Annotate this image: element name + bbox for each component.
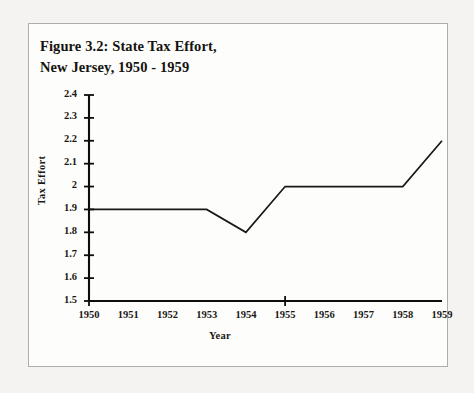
x-tick-label: 1956 [304,309,344,320]
x-tick-label: 1952 [147,309,187,320]
x-axis-label: Year [180,330,260,341]
x-tick-label: 1957 [344,309,384,320]
x-tick-label: 1953 [187,309,227,320]
y-axis-label: Tax Effort [36,136,47,226]
y-tick-label: 1.5 [51,294,77,305]
chart-plot-area: Tax Effort Year 1.51.61.71.81.922.12.22.… [0,0,474,393]
y-tick-label: 2.4 [51,88,77,99]
x-tick-label: 1958 [383,309,423,320]
figure-root: Figure 3.2: State Tax Effort, New Jersey… [0,0,474,393]
x-tick-label: 1951 [108,309,148,320]
x-tick-label: 1950 [69,309,109,320]
y-tick-label: 2.1 [51,156,77,167]
x-tick-label: 1959 [422,309,462,320]
data-series-line [89,141,442,233]
y-tick-label: 2 [51,179,77,190]
y-tick-label: 1.9 [51,202,77,213]
y-tick-label: 1.7 [51,248,77,259]
x-tick-label: 1955 [265,309,305,320]
y-tick-label: 2.3 [51,110,77,121]
y-tick-label: 1.6 [51,271,77,282]
y-tick-label: 1.8 [51,225,77,236]
x-tick-label: 1954 [226,309,266,320]
axis-group [89,95,442,301]
y-tick-label: 2.2 [51,133,77,144]
